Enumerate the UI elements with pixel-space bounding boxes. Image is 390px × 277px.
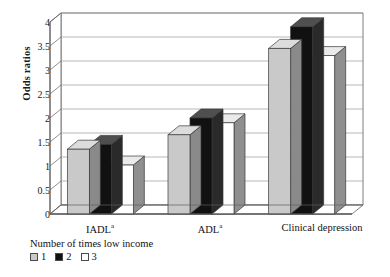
legend-title: Number of times low income xyxy=(30,238,153,249)
legend-label-2: 2 xyxy=(66,252,71,262)
bar-adl-series-1 xyxy=(168,126,201,214)
legend-entry-2: 2 xyxy=(55,252,71,262)
legend: Number of times low income 1 2 3 xyxy=(30,238,153,262)
legend-swatch-3-icon xyxy=(81,253,89,261)
bar-iadl-series-1 xyxy=(67,140,100,214)
legend-entry-3: 3 xyxy=(81,252,97,262)
legend-label-1: 1 xyxy=(41,252,46,262)
plot-area xyxy=(0,0,390,277)
legend-label-3: 3 xyxy=(92,252,97,262)
odds-ratio-bar-chart: Odds ratios 4 3.5 3 2.5 2 1.5 1 0.5 0 IA… xyxy=(0,0,390,277)
x-label-clinical-depression: Clinical depression xyxy=(262,222,382,233)
legend-swatch-2-icon xyxy=(55,253,63,261)
x-label-iadl: IADLa xyxy=(60,222,140,235)
legend-items: 1 2 3 xyxy=(30,252,153,262)
legend-entry-1: 1 xyxy=(30,252,46,262)
x-label-adl: ADLa xyxy=(170,222,250,235)
legend-swatch-1-icon xyxy=(30,253,38,261)
bar-clinical-depression-series-1 xyxy=(269,39,302,214)
